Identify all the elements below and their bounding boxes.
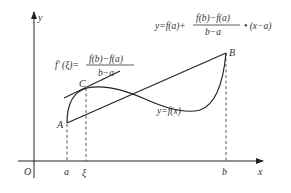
tick-xi-label: ξ <box>82 167 87 179</box>
origin-label: O <box>24 166 31 177</box>
tick-a-label: a <box>64 166 69 177</box>
tick-b-label: b <box>222 166 227 177</box>
secant-eq-lhs: y=f(a)+ <box>154 21 186 32</box>
x-axis-label: x <box>257 166 263 177</box>
secant-eq-denominator: b−a <box>205 27 221 37</box>
secant-eq-rhs: • (x−a) <box>244 21 271 32</box>
y-axis-label: y <box>37 12 43 23</box>
point-a-label: A <box>56 119 64 130</box>
point-c-label: C <box>79 78 86 89</box>
mean-value-diagram: A B C y x O a ξ b y=f(x) y=f(a)+ f(b)−f(… <box>0 0 291 193</box>
derivative-eq-lhs: f′ (ξ)= <box>55 60 79 71</box>
point-b-label: B <box>229 47 235 58</box>
secant-equation: y=f(a)+ f(b)−f(a) b−a • (x−a) <box>154 13 271 37</box>
curve-label: y=f(x) <box>156 106 181 117</box>
derivative-eq-denominator: b−a <box>98 68 114 78</box>
derivative-eq-numerator: f(b)−f(a) <box>89 54 123 65</box>
secant-eq-numerator: f(b)−f(a) <box>196 13 230 24</box>
derivative-equation: f′ (ξ)= f(b)−f(a) b−a <box>55 54 134 78</box>
